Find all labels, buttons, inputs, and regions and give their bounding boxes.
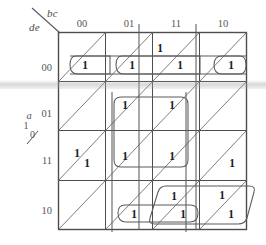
row-header-3: 10 [30, 205, 52, 216]
column-header-0: 00 [71, 18, 93, 29]
column-header-3: 10 [212, 18, 234, 29]
column-header-2: 11 [165, 18, 187, 29]
kmap-cell-one: 1 [216, 189, 228, 201]
kmap-cell-one: 1 [126, 59, 138, 71]
kmap-cell-one: 1 [119, 150, 131, 162]
kmap-cell-one: 1 [166, 150, 178, 162]
corner-label-bc: bc [47, 7, 58, 19]
corner-label-de: de [29, 21, 40, 33]
kmap-cell-one: 1 [128, 208, 140, 220]
karnaugh-map-diagram: bc de a 1 0 00 01 11 10 00 01 11 10 1 1 … [0, 0, 266, 245]
row-header-0: 00 [30, 62, 52, 73]
kmap-cell-one: 1 [225, 208, 237, 220]
kmap-cell-one: 1 [177, 208, 189, 220]
kmap-cell-one: 1 [81, 157, 93, 169]
kmap-cell-one: 1 [168, 190, 180, 202]
row-header-2: 11 [30, 155, 52, 166]
kmap-cell-one: 1 [226, 157, 238, 169]
kmap-cell-one: 1 [119, 99, 131, 111]
kmap-cell-one: 1 [79, 59, 91, 71]
kmap-cell-one: 1 [225, 59, 237, 71]
kmap-cell-one: 1 [174, 59, 186, 71]
column-header-1: 01 [118, 18, 140, 29]
kmap-cell-one: 1 [154, 42, 166, 54]
kmap-cell-one: 1 [166, 99, 178, 111]
row-header-1: 01 [30, 108, 52, 119]
axis-fraction-slash [24, 129, 44, 147]
